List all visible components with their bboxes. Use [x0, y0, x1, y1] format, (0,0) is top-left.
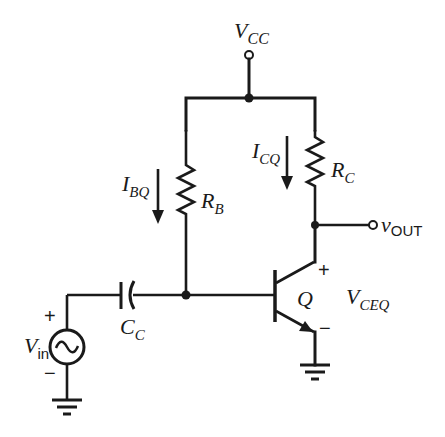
vin-plus: + — [44, 305, 56, 327]
rc-label: RC — [330, 157, 355, 186]
vin-minus: − — [44, 362, 56, 384]
ibq-label: IBQ — [121, 171, 149, 200]
vin-label: Vin — [24, 333, 49, 362]
top-rail-wire — [186, 98, 315, 130]
vout-label: vOUT — [381, 212, 422, 239]
vce-plus: + — [318, 259, 330, 281]
npn-transistor-q — [275, 262, 315, 365]
output-node — [311, 221, 377, 262]
input-ground-icon — [52, 400, 82, 414]
vcc-label: VCC — [234, 18, 269, 47]
emitter-ground-icon — [300, 365, 330, 379]
rb-label: RB — [200, 188, 224, 217]
cc-label: CC — [120, 314, 146, 343]
vceq-label: VCEQ — [346, 284, 390, 313]
q-label: Q — [297, 286, 313, 311]
coupling-capacitor-cc — [67, 281, 134, 309]
icq-label: ICQ — [251, 138, 280, 167]
vcc-terminal — [245, 51, 254, 103]
collector-resistor-rc — [307, 130, 323, 225]
vce-minus: − — [319, 317, 331, 339]
icq-arrow-icon — [281, 136, 293, 190]
base-resistor-rb — [178, 130, 194, 295]
base-wire — [133, 291, 275, 300]
ibq-arrow-icon — [152, 169, 164, 224]
